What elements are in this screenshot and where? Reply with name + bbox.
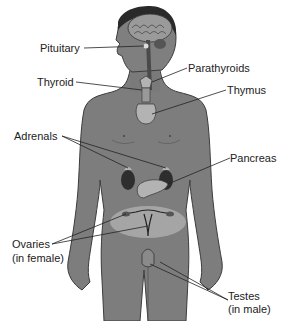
- cerebellum: [154, 39, 166, 49]
- label-ovaries-sub: (in female): [12, 252, 64, 264]
- pituitary-gland: [144, 44, 149, 49]
- testes-organ: [142, 249, 154, 267]
- label-pituitary: Pituitary: [40, 42, 80, 54]
- label-ovaries: Ovaries: [12, 238, 50, 250]
- label-testes: Testes: [228, 290, 260, 302]
- label-adrenals: Adrenals: [14, 130, 57, 142]
- trachea: [142, 88, 150, 102]
- brain: [128, 14, 172, 42]
- label-thyroid: Thyroid: [37, 76, 74, 88]
- label-testes-sub: (in male): [228, 303, 271, 315]
- left-kidney: [121, 170, 135, 190]
- endocrine-diagram: Pituitary Parathyroids Thyroid Thymus Ad…: [0, 0, 283, 321]
- label-thymus: Thymus: [227, 84, 266, 96]
- label-parathyroids: Parathyroids: [188, 62, 250, 74]
- label-pancreas: Pancreas: [230, 152, 276, 164]
